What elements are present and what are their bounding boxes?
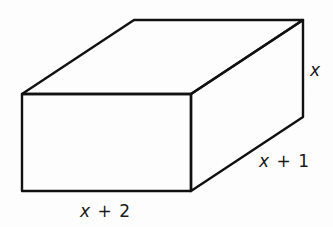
top-face	[22, 20, 303, 94]
rectangular-prism-diagram: x x + 1 x + 2	[0, 0, 333, 227]
front-face	[22, 94, 191, 191]
width-label: x + 2	[79, 201, 130, 221]
height-label: x	[309, 60, 321, 80]
depth-label: x + 1	[258, 151, 309, 171]
